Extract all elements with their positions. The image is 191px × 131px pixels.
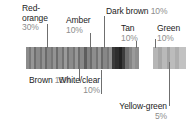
callout-dark-brown: Dark brown 10% <box>106 7 167 17</box>
callout-amber: Amber 10% <box>66 16 91 35</box>
callout-white-clear: White/clear 10% <box>38 76 100 95</box>
callout-yellow-green: Yellow-green 5% <box>100 102 167 121</box>
callout-white-clear-percent: 10% <box>38 86 100 96</box>
callout-tan: Tan 10% <box>121 24 138 43</box>
leader-line-green <box>155 39 156 48</box>
callout-dark-brown-label: Dark brown <box>106 6 148 16</box>
callout-red-orange-percent: 30% <box>22 23 48 33</box>
leader-line-amber <box>90 33 91 48</box>
callout-dark-brown-percent: 10% <box>151 6 168 16</box>
color-strip-main <box>26 47 139 69</box>
callout-tan-percent: 10% <box>121 34 138 44</box>
color-segment <box>135 47 139 69</box>
leader-line-white-clear <box>101 70 102 94</box>
color-segment <box>179 47 186 69</box>
callout-green-percent: 10% <box>157 34 180 44</box>
leader-line-dark-brown <box>104 16 105 48</box>
callout-yellow-green-percent: 5% <box>100 112 167 122</box>
callout-red-orange: Red- orange 30% <box>22 4 48 33</box>
callout-green: Green 10% <box>157 24 180 43</box>
figure-canvas: Red- orange 30% Amber 10% Dark brown 10%… <box>0 0 191 131</box>
leader-line-yellow-green <box>169 62 170 106</box>
callout-amber-percent: 10% <box>66 26 91 36</box>
